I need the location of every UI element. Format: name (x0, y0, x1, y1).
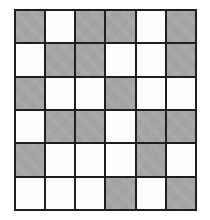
grid-cell-r2-c4[interactable] (106, 44, 134, 75)
grid-cell-r2-c1[interactable] (16, 44, 44, 75)
grid-cell-r5-c3[interactable] (76, 144, 104, 175)
grid-cell-r1-c6[interactable] (167, 11, 195, 42)
grid-cell-r1-c3[interactable] (76, 11, 104, 42)
grid-cell-r6-c3[interactable] (76, 178, 104, 209)
grid-cell-r4-c2[interactable] (46, 111, 74, 142)
grid-cell-r6-c4[interactable] (106, 178, 134, 209)
grid-cell-r1-c1[interactable] (16, 11, 44, 42)
grid-cell-r5-c5[interactable] (137, 144, 165, 175)
grid-cell-r6-c1[interactable] (16, 178, 44, 209)
grid-cell-r6-c6[interactable] (167, 178, 195, 209)
grid-cell-r4-c5[interactable] (137, 111, 165, 142)
grid-cell-r3-c6[interactable] (167, 78, 195, 109)
grid-cell-r2-c5[interactable] (137, 44, 165, 75)
grid-cell-r5-c4[interactable] (106, 144, 134, 175)
puzzle-grid (14, 9, 197, 211)
grid-cell-r3-c1[interactable] (16, 78, 44, 109)
grid-cell-r5-c2[interactable] (46, 144, 74, 175)
grid-cell-r1-c4[interactable] (106, 11, 134, 42)
grid-cell-r4-c4[interactable] (106, 111, 134, 142)
grid-cell-r4-c6[interactable] (167, 111, 195, 142)
grid-cell-r3-c5[interactable] (137, 78, 165, 109)
grid-cell-r5-c1[interactable] (16, 144, 44, 175)
grid-cell-r4-c3[interactable] (76, 111, 104, 142)
grid-cell-r2-c3[interactable] (76, 44, 104, 75)
grid-cell-r1-c5[interactable] (137, 11, 165, 42)
grid-cell-r3-c2[interactable] (46, 78, 74, 109)
grid-cell-r2-c2[interactable] (46, 44, 74, 75)
grid-cell-r3-c3[interactable] (76, 78, 104, 109)
grid-cell-r5-c6[interactable] (167, 144, 195, 175)
grid-cell-r1-c2[interactable] (46, 11, 74, 42)
grid-cell-r6-c5[interactable] (137, 178, 165, 209)
grid-cell-r4-c1[interactable] (16, 111, 44, 142)
grid-cell-r3-c4[interactable] (106, 78, 134, 109)
grid-cell-r2-c6[interactable] (167, 44, 195, 75)
grid-cell-r6-c2[interactable] (46, 178, 74, 209)
